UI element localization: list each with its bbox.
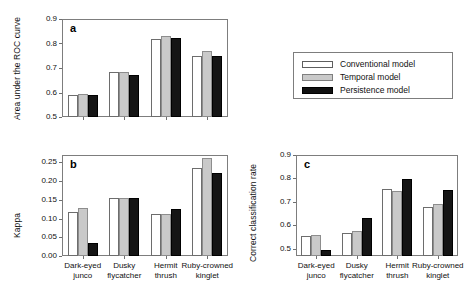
bar-c-2-temporal xyxy=(392,191,402,256)
bar-b-0-temporal xyxy=(78,208,88,256)
y-tick-a-4 xyxy=(59,19,62,20)
y-tick-c-2 xyxy=(293,202,296,203)
bar-a-0-conventional xyxy=(68,95,78,117)
y-axis-title-b: Kappa xyxy=(12,213,22,238)
y-tick-label-b-2: 0.10 xyxy=(30,214,57,223)
bar-c-3-conventional xyxy=(423,207,433,256)
y-tick-label-b-4: 0.20 xyxy=(30,176,57,185)
x-tick-c-2 xyxy=(397,256,398,259)
y-tick-label-a-0: 0.5 xyxy=(30,112,57,121)
panel-letter-c: c xyxy=(304,158,310,170)
y-tick-b-2 xyxy=(59,219,62,220)
bar-b-0-conventional xyxy=(68,212,78,256)
bar-b-1-persistence xyxy=(129,198,139,256)
y-tick-label-b-0: 0.00 xyxy=(30,251,57,260)
legend-item-temporal: Temporal model xyxy=(302,72,400,82)
bar-a-1-conventional xyxy=(109,72,119,117)
x-tick-a-2 xyxy=(166,117,167,120)
x-category-line: Ruby-crowned xyxy=(163,261,251,271)
x-category-line: kinglet xyxy=(163,271,251,281)
legend-label-temporal: Temporal model xyxy=(340,72,400,82)
bar-a-0-temporal xyxy=(78,94,88,117)
y-tick-label-c-1: 0.6 xyxy=(264,220,291,229)
y-tick-label-c-4: 0.9 xyxy=(264,150,291,159)
x-category-label-c-3: Ruby-crownedkinglet xyxy=(394,261,464,281)
bar-b-3-persistence xyxy=(212,173,222,256)
y-tick-label-c-2: 0.7 xyxy=(264,197,291,206)
bar-c-3-temporal xyxy=(433,204,443,256)
y-axis-title-c: Correct classification rate xyxy=(248,164,258,262)
bar-c-3-persistence xyxy=(443,190,453,256)
y-tick-c-4 xyxy=(293,155,296,156)
y-tick-label-b-3: 0.15 xyxy=(30,195,57,204)
x-category-line: kinglet xyxy=(394,271,464,281)
bar-c-2-conventional xyxy=(382,189,392,256)
bar-c-2-persistence xyxy=(402,179,412,256)
bar-c-1-persistence xyxy=(362,218,372,256)
x-category-line: Ruby-crowned xyxy=(394,261,464,271)
bar-b-3-temporal xyxy=(202,158,212,256)
x-category-label-b-3: Ruby-crownedkinglet xyxy=(163,261,251,281)
bar-c-0-conventional xyxy=(301,236,311,256)
x-tick-b-0 xyxy=(83,256,84,259)
bar-a-3-temporal xyxy=(202,51,212,117)
bar-c-0-temporal xyxy=(311,235,321,256)
bar-a-3-persistence xyxy=(212,56,222,117)
legend-item-conventional: Conventional model xyxy=(302,59,415,69)
bar-b-0-persistence xyxy=(88,243,98,256)
y-tick-label-a-1: 0.6 xyxy=(30,88,57,97)
legend-swatch-persistence xyxy=(302,87,333,94)
bar-a-2-temporal xyxy=(161,36,171,117)
bar-b-1-temporal xyxy=(119,198,129,256)
x-tick-b-2 xyxy=(166,256,167,259)
bar-b-2-temporal xyxy=(161,214,171,256)
x-tick-c-1 xyxy=(357,256,358,259)
y-tick-b-0 xyxy=(59,256,62,257)
legend-swatch-temporal xyxy=(302,74,333,81)
legend-swatch-conventional xyxy=(302,61,333,68)
legend: Conventional modelTemporal modelPersiste… xyxy=(293,52,453,99)
x-tick-b-3 xyxy=(207,256,208,259)
bar-c-1-temporal xyxy=(352,231,362,256)
legend-label-conventional: Conventional model xyxy=(340,59,415,69)
y-tick-b-1 xyxy=(59,237,62,238)
panel-letter-a: a xyxy=(70,22,76,34)
bar-b-1-conventional xyxy=(109,198,119,256)
x-tick-a-0 xyxy=(83,117,84,120)
x-tick-a-1 xyxy=(124,117,125,120)
y-tick-a-2 xyxy=(59,68,62,69)
y-tick-label-c-0: 0.5 xyxy=(264,244,291,253)
legend-item-persistence: Persistence model xyxy=(302,85,410,95)
bar-a-1-temporal xyxy=(119,72,129,117)
x-tick-b-1 xyxy=(124,256,125,259)
y-tick-label-b-5: 0.25 xyxy=(30,157,57,166)
bar-b-2-persistence xyxy=(171,209,181,256)
y-tick-a-1 xyxy=(59,93,62,94)
bar-a-0-persistence xyxy=(88,95,98,117)
bar-a-2-conventional xyxy=(151,39,161,117)
y-tick-label-c-3: 0.8 xyxy=(264,173,291,182)
y-tick-b-5 xyxy=(59,162,62,163)
bar-a-1-persistence xyxy=(129,75,139,117)
y-tick-b-4 xyxy=(59,181,62,182)
bar-a-3-conventional xyxy=(192,56,202,117)
y-tick-label-a-2: 0.7 xyxy=(30,63,57,72)
bar-c-1-conventional xyxy=(342,233,352,256)
bar-c-0-persistence xyxy=(321,250,331,256)
y-axis-title-a: Area under the ROC curve xyxy=(12,17,22,120)
x-tick-c-0 xyxy=(316,256,317,259)
y-tick-c-1 xyxy=(293,225,296,226)
y-tick-c-3 xyxy=(293,178,296,179)
bar-a-2-persistence xyxy=(171,38,181,117)
y-tick-a-3 xyxy=(59,43,62,44)
x-tick-c-3 xyxy=(438,256,439,259)
x-tick-a-3 xyxy=(207,117,208,120)
panel-letter-b: b xyxy=(70,158,77,170)
y-tick-a-0 xyxy=(59,117,62,118)
y-tick-label-a-4: 0.9 xyxy=(30,14,57,23)
bar-b-2-conventional xyxy=(151,214,161,256)
y-tick-label-b-1: 0.05 xyxy=(30,232,57,241)
y-tick-b-3 xyxy=(59,200,62,201)
y-tick-label-a-3: 0.8 xyxy=(30,39,57,48)
bar-b-3-conventional xyxy=(192,168,202,256)
